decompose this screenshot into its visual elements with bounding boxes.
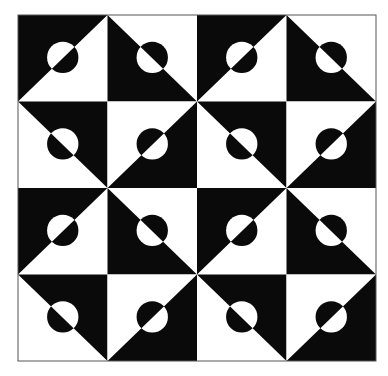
tile-grid xyxy=(18,15,377,362)
tile-d xyxy=(287,275,377,362)
tile-b xyxy=(287,188,377,275)
tile-c xyxy=(18,102,108,189)
tile-d xyxy=(287,102,377,189)
tile-c xyxy=(18,275,108,362)
tile-a xyxy=(197,188,287,275)
tile-d xyxy=(108,102,198,189)
op-art-pattern xyxy=(0,0,388,376)
tile-d xyxy=(108,275,198,362)
tile-c xyxy=(197,275,287,362)
tile-a xyxy=(18,15,108,102)
tile-b xyxy=(108,188,198,275)
tile-c xyxy=(197,102,287,189)
tile-b xyxy=(108,15,198,102)
tile-a xyxy=(197,15,287,102)
tile-b xyxy=(287,15,377,102)
tile-a xyxy=(18,188,108,275)
